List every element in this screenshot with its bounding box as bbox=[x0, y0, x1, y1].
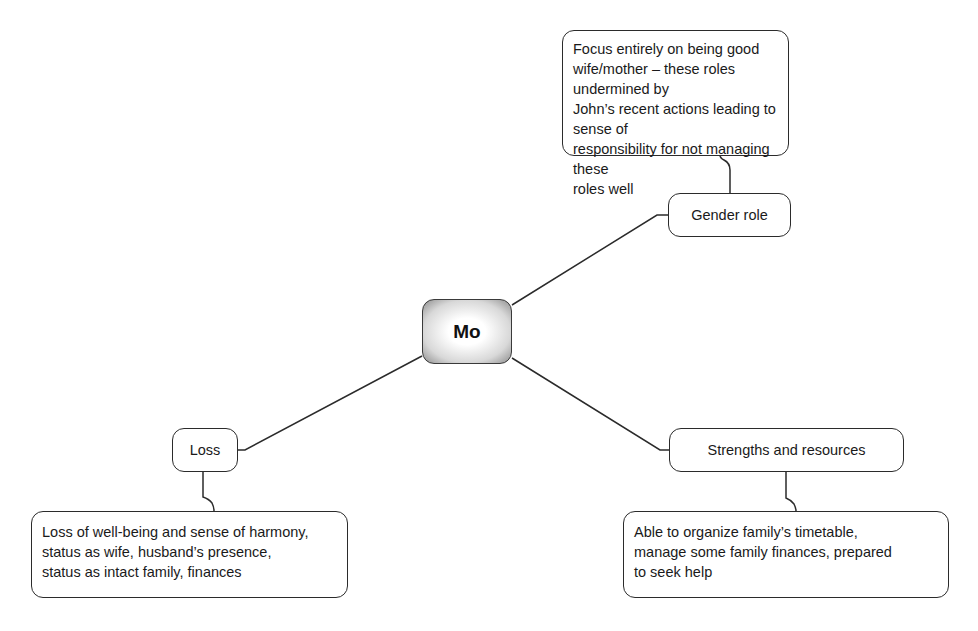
detail-line: to seek help bbox=[634, 562, 892, 582]
detail-line: manage some family finances, prepared bbox=[634, 542, 892, 562]
detail-box-gender-role[interactable]: Focus entirely on being good wife/mother… bbox=[562, 30, 789, 156]
connector-mo-to-strengths bbox=[512, 358, 669, 450]
detail-text-loss: Loss of well-being and sense of harmony,… bbox=[42, 522, 309, 582]
detail-line: John’s recent actions leading to sense o… bbox=[573, 99, 778, 139]
connector-strengths-to-detail bbox=[786, 471, 796, 511]
branch-label-gender-role: Gender role bbox=[691, 205, 768, 225]
branch-node-gender-role[interactable]: Gender role bbox=[668, 193, 791, 237]
branch-node-strengths-and-resources[interactable]: Strengths and resources bbox=[669, 428, 904, 472]
detail-text-gender-role: Focus entirely on being good wife/mother… bbox=[573, 39, 778, 199]
detail-line: Loss of well-being and sense of harmony, bbox=[42, 522, 309, 542]
detail-line: Able to organize family’s timetable, bbox=[634, 522, 892, 542]
detail-line: roles well bbox=[573, 179, 778, 199]
mind-map-canvas: Mo Gender role Focus entirely on being g… bbox=[0, 0, 978, 631]
detail-line: Focus entirely on being good bbox=[573, 39, 778, 59]
branch-node-loss[interactable]: Loss bbox=[172, 428, 238, 472]
connector-mo-to-gender-role bbox=[512, 215, 668, 305]
connector-mo-to-loss bbox=[237, 356, 422, 450]
detail-text-strengths: Able to organize family’s timetable, man… bbox=[634, 522, 892, 582]
detail-box-strengths-and-resources[interactable]: Able to organize family’s timetable, man… bbox=[623, 511, 949, 598]
central-node-label: Mo bbox=[453, 321, 480, 343]
detail-line: wife/mother – these roles undermined by bbox=[573, 59, 778, 99]
branch-label-strengths: Strengths and resources bbox=[708, 440, 866, 460]
branch-label-loss: Loss bbox=[190, 440, 221, 460]
connector-loss-to-detail bbox=[203, 471, 214, 511]
detail-line: responsibility for not managing these bbox=[573, 139, 778, 179]
detail-line: status as intact family, finances bbox=[42, 562, 309, 582]
central-node-mo[interactable]: Mo bbox=[422, 299, 512, 364]
detail-line: status as wife, husband’s presence, bbox=[42, 542, 309, 562]
detail-box-loss[interactable]: Loss of well-being and sense of harmony,… bbox=[31, 511, 348, 598]
